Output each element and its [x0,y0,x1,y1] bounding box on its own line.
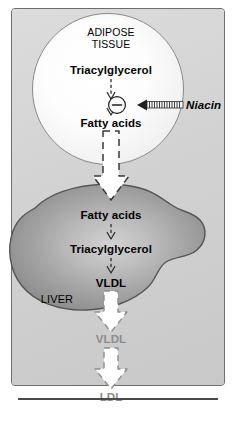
liver-vldl-label: VLDL [96,277,126,289]
adipose-triacylglycerol-label: Triacylglycerol [70,64,152,76]
adipose-fatty-acids-label: Fatty acids [80,117,141,129]
pathway-figure: ADIPOSE TISSUE Triacylglycerol Fatty aci… [0,0,239,422]
liver-fatty-acids-label: Fatty acids [80,209,141,221]
footer-rule [18,398,218,400]
circulating-ldl-label: LDL [100,391,123,403]
liver-organ-label: LIVER [41,293,73,305]
adipose-compartment-label-line2: TISSUE [92,38,131,50]
liver-triacylglycerol-label: Triacylglycerol [70,243,152,255]
adipose-compartment-label-line1: ADIPOSE [87,26,134,38]
circulating-vldl-label: VLDL [96,333,126,345]
niacin-label: Niacin [186,99,221,111]
